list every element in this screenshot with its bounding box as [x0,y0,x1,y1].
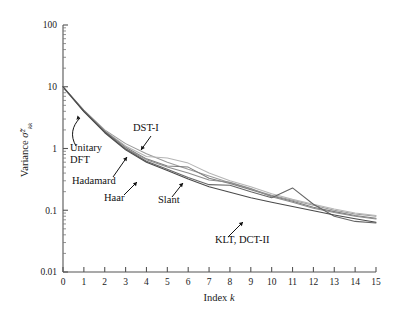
y-tick-label-100: 100 [43,20,58,30]
y-axis-tick-labels: 0.010.1110100 [40,20,57,277]
x-tick-label-8: 8 [228,277,233,287]
annotation-unitary: Unitary [70,142,103,153]
y-tick-label-0.1: 0.1 [45,206,57,216]
x-tick-label-1: 1 [81,277,86,287]
x-tick-label-4: 4 [144,277,149,287]
variance-log-plot: 0.010.1110100 0123456789101112131415 Uni… [0,0,393,317]
x-axis-title: Index k [203,292,235,303]
x-axis-tick-labels: 0123456789101112131415 [61,277,381,287]
x-tick-label-7: 7 [207,277,212,287]
x-tick-label-15: 15 [371,277,381,287]
x-axis-ticks [63,267,376,272]
annotation-slant: Slant [158,194,180,205]
arrowhead-slant [179,183,183,187]
annotation-dst-i: DST-I [133,122,159,133]
annotation-dft: DFT [70,154,90,165]
x-tick-label-5: 5 [165,277,170,287]
x-tick-label-2: 2 [102,277,107,287]
x-tick-label-6: 6 [186,277,191,287]
y-tick-label-10: 10 [48,82,58,92]
x-tick-label-0: 0 [61,277,66,287]
annotation-haar: Haar [104,192,125,203]
y-tick-label-0.01: 0.01 [40,267,57,277]
annotation-hadamard: Hadamard [72,175,116,186]
x-tick-label-14: 14 [350,277,360,287]
x-tick-label-12: 12 [309,277,319,287]
x-tick-label-9: 9 [248,277,253,287]
x-tick-label-10: 10 [267,277,277,287]
arrowhead-dst-i [141,146,145,150]
x-tick-label-11: 11 [288,277,297,287]
y-tick-label-1: 1 [52,144,57,154]
x-tick-label-13: 13 [330,277,340,287]
y-axis-title: Variance σ̃2kk [19,122,34,177]
x-tick-label-3: 3 [123,277,128,287]
annotation-klt-dct-ii: KLT, DCT-II [215,234,270,245]
figure-container: 0.010.1110100 0123456789101112131415 Uni… [0,0,393,317]
